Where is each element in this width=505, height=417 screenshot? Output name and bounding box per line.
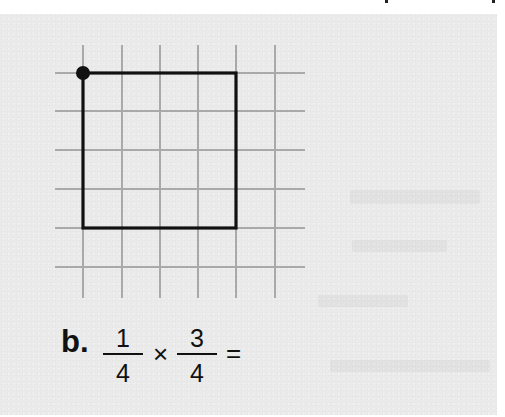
problem-b: b. 1 4 × 3 4 = <box>0 0 505 417</box>
problem-label: b. <box>61 325 89 359</box>
worksheet-page: b. 1 4 × 3 4 = <box>0 0 505 417</box>
fraction-three-quarters: 3 4 <box>177 326 217 386</box>
fraction-bar <box>177 353 217 355</box>
fraction-numerator: 3 <box>177 326 217 350</box>
equals-sign: = <box>226 340 241 366</box>
fraction-bar <box>103 353 143 355</box>
fraction-denominator: 4 <box>177 361 217 385</box>
fraction-numerator: 1 <box>103 326 143 350</box>
multiply-sign: × <box>153 341 168 367</box>
fraction-one-quarter: 1 4 <box>103 326 143 386</box>
fraction-denominator: 4 <box>103 361 143 385</box>
